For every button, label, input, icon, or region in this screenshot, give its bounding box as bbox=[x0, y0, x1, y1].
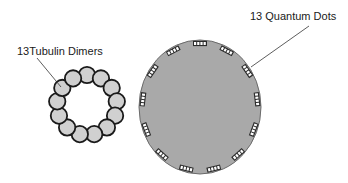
quantum-dot bbox=[193, 41, 207, 46]
quantum-dots-leader-line bbox=[251, 26, 309, 67]
tubulin-dimer bbox=[65, 70, 81, 86]
tubulin-leader-line bbox=[37, 58, 61, 87]
quantum-dots-label: 13 Quantum Dots bbox=[250, 10, 336, 22]
diagram-canvas bbox=[0, 0, 348, 183]
tubulin-dimer-ring bbox=[49, 67, 125, 143]
tubulin-dimers-label: 13Tubulin Dimers bbox=[17, 45, 103, 57]
quantum-dot-nanoparticle bbox=[139, 40, 261, 174]
